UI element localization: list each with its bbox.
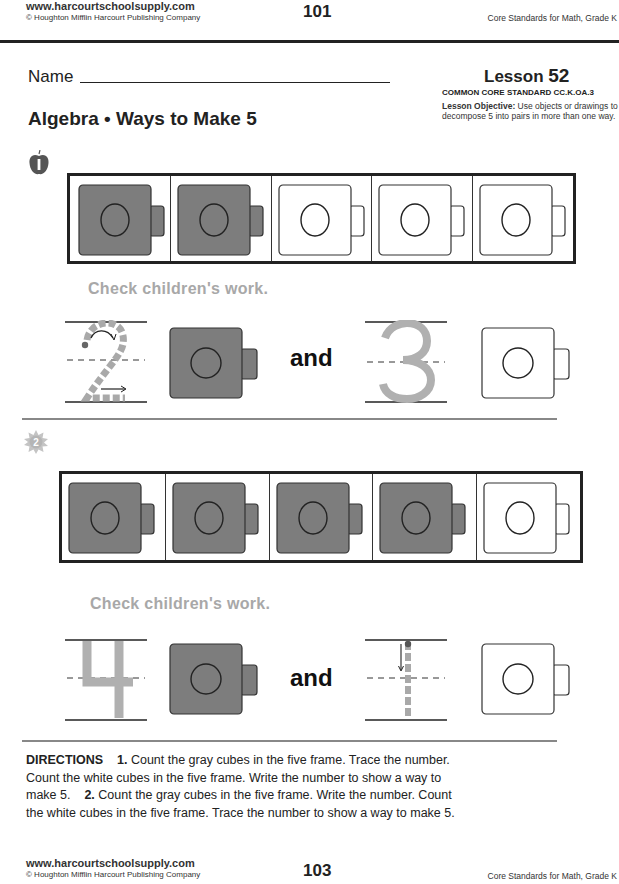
- gray-cube-icon: [172, 482, 260, 554]
- svg-text:2: 2: [33, 437, 39, 448]
- lesson-number: 52: [548, 65, 569, 86]
- white-cube-icon: [481, 643, 571, 715]
- frame-cell: [270, 474, 374, 560]
- lesson-heading: Lesson 52: [484, 65, 569, 87]
- objective-label: Lesson Objective:: [442, 101, 515, 111]
- white-cube-icon: [278, 184, 366, 256]
- gray-cube-icon: [177, 184, 265, 256]
- name-field[interactable]: [80, 68, 390, 83]
- white-cube-icon: [378, 184, 466, 256]
- footer-url: www.harcourtschoolsupply.com: [26, 857, 195, 869]
- page-title: Algebra • Ways to Make 5: [28, 108, 257, 130]
- five-frame-1: [67, 173, 576, 264]
- white-cube-icon: [481, 327, 571, 399]
- section-divider-2: [22, 740, 557, 742]
- white-cube-icon: [483, 482, 571, 554]
- trace-number-2[interactable]: [65, 320, 147, 404]
- section-divider-1: [22, 418, 557, 420]
- apple-icon: [28, 150, 50, 176]
- and-label-1: and: [290, 344, 333, 372]
- lesson-label: Lesson: [484, 67, 544, 86]
- lesson-objective: Lesson Objective: Use objects or drawing…: [442, 101, 618, 121]
- header-page-number: 101: [303, 2, 331, 22]
- answer-number-3[interactable]: [365, 320, 447, 404]
- check-work-note-2: Check children's work.: [90, 595, 270, 613]
- directions-label: DIRECTIONS: [26, 753, 103, 767]
- direction-1-number: 1.: [117, 753, 127, 767]
- header-right-text: Core Standards for Math, Grade K: [488, 13, 617, 23]
- frame-cell: [473, 176, 573, 261]
- check-work-note-1: Check children's work.: [88, 280, 268, 298]
- frame-cell: [171, 176, 272, 261]
- direction-2-number: 2.: [84, 788, 94, 802]
- header-divider: [0, 40, 619, 43]
- common-core-standard: COMMON CORE STANDARD CC.K.OA.3: [442, 88, 594, 97]
- footer-right-text: Core Standards for Math, Grade K: [488, 871, 617, 881]
- answer-number-4[interactable]: [65, 638, 147, 722]
- header-copyright: © Houghton Mifflin Harcourt Publishing C…: [26, 13, 200, 22]
- header-url: www.harcourtschoolsupply.com: [26, 0, 195, 12]
- frame-cell: [477, 474, 580, 560]
- five-frame-2: [59, 471, 583, 563]
- gray-cube-icon: [169, 327, 259, 399]
- trace-number-1[interactable]: [365, 638, 447, 722]
- frame-cell: [373, 474, 477, 560]
- footer-page-number: 103: [303, 861, 331, 881]
- frame-cell: [372, 176, 473, 261]
- gray-cube-icon: [379, 482, 467, 554]
- gray-cube-icon: [68, 482, 156, 554]
- frame-cell: [272, 176, 373, 261]
- name-label: Name: [28, 67, 73, 87]
- gray-cube-icon: [78, 184, 166, 256]
- directions-block: DIRECTIONS 1. Count the gray cubes in th…: [26, 752, 456, 822]
- footer-copyright: © Houghton Mifflin Harcourt Publishing C…: [26, 870, 200, 879]
- sun-icon: 2: [24, 430, 48, 454]
- and-label-2: and: [290, 664, 333, 692]
- white-cube-icon: [479, 184, 567, 256]
- frame-cell: [166, 474, 270, 560]
- gray-cube-icon: [169, 643, 259, 715]
- frame-cell: [62, 474, 166, 560]
- gray-cube-icon: [276, 482, 364, 554]
- frame-cell: [70, 176, 171, 261]
